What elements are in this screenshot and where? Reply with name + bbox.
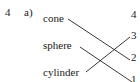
line-cone-to-2 — [68, 19, 130, 60]
line-sphere-to-1 — [80, 47, 132, 82]
matching-lines — [0, 0, 140, 82]
line-cylinder-to-3 — [86, 37, 130, 72]
